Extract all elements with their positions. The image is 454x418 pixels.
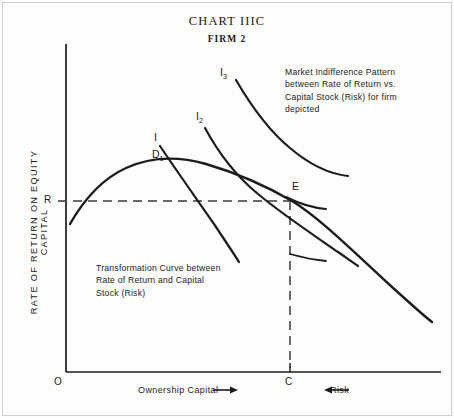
chart-page: CHART IIIC FIRM 2 <box>0 0 454 418</box>
plate-border <box>3 3 452 416</box>
origin-label: O <box>54 376 62 387</box>
y-axis-label: RATE OF RETURN ON EQUITY CAPITAL <box>29 127 49 337</box>
curve-label-i1: I <box>154 131 157 143</box>
point-label-e: E <box>292 180 299 192</box>
point-label-d1-sub: 1 <box>160 154 164 163</box>
curve-label-i3-sub: 3 <box>223 72 227 81</box>
x-axis-right-label: Risk <box>330 385 349 395</box>
tangent-arc-at-e <box>286 197 326 209</box>
x-axis-left-label: Ownership Capital <box>138 385 218 395</box>
annotation-transformation-curve: Transformation Curve between Rate of Ret… <box>96 262 272 299</box>
x-tick-label-c: C <box>285 376 292 387</box>
point-label-d1-base: D <box>152 148 160 160</box>
point-label-d1: D1 <box>152 148 164 163</box>
curve-label-i2: I2 <box>196 110 203 125</box>
y-tick-label-r: R <box>44 194 51 205</box>
annotation-market-indifference: Market Indifference Pattern between Rate… <box>285 66 447 115</box>
i2-terminal-whisker <box>290 254 326 261</box>
curve-label-i3: I3 <box>220 66 227 81</box>
chart-canvas <box>0 0 454 418</box>
curve-label-i2-sub: 2 <box>199 116 203 125</box>
